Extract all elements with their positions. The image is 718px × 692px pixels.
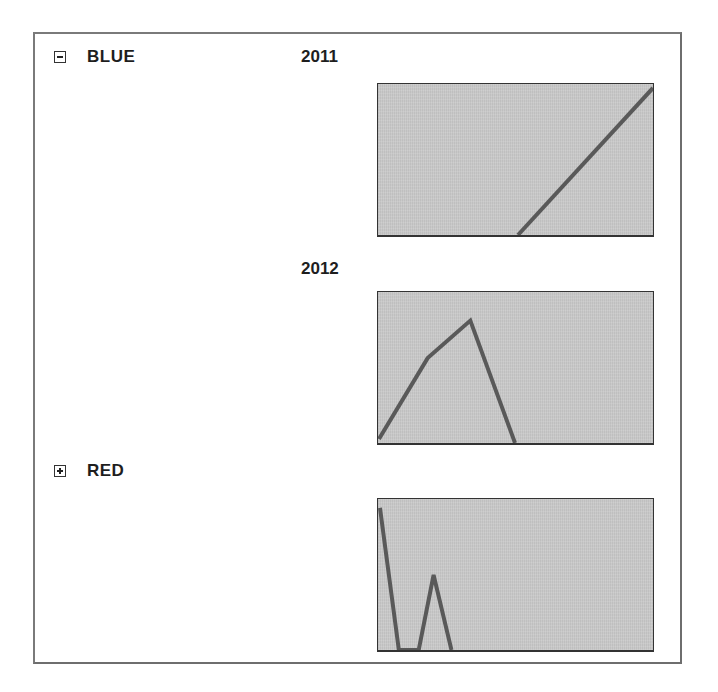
group-label-red: RED	[87, 462, 124, 480]
year-label-2012: 2012	[301, 260, 339, 278]
sparkline-blue-2012	[377, 291, 654, 445]
sparkline-chart	[378, 499, 653, 650]
year-label-2011: 2011	[301, 48, 338, 66]
sparkline-blue-2011	[377, 83, 654, 237]
sparkline-chart	[378, 84, 653, 235]
expand-plus-icon[interactable]	[54, 465, 66, 477]
sparkline-chart	[378, 292, 653, 443]
group-label-blue: BLUE	[87, 48, 135, 66]
sparkline-red	[377, 498, 654, 652]
collapse-minus-icon[interactable]	[54, 51, 66, 63]
